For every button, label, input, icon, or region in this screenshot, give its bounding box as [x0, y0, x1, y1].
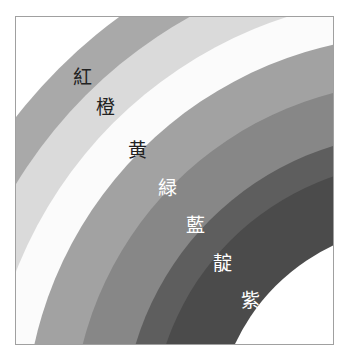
label-yellow: 黄	[126, 140, 148, 160]
label-indigo: 靛	[211, 253, 233, 273]
label-violet: 紫	[239, 290, 261, 310]
label-orange: 橙	[94, 97, 116, 117]
label-blue: 藍	[184, 215, 206, 235]
label-green: 緑	[156, 178, 178, 198]
label-red: 紅	[71, 67, 93, 87]
